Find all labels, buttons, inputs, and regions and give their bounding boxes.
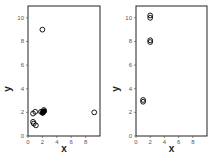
x-tick-label: 0 xyxy=(134,139,138,145)
y-tick-label: 2 xyxy=(21,109,25,115)
data-point xyxy=(92,110,97,115)
x-tick-label: 8 xyxy=(191,139,195,145)
y-tick-label: 10 xyxy=(17,15,24,21)
scatter-panel-2: 024680246810xy xyxy=(110,6,207,154)
scatter-figure: 024680246810xy024680246810xy xyxy=(0,0,213,155)
scatter-panel-1: 024680246810xy xyxy=(2,6,100,154)
y-tick-label: 8 xyxy=(21,38,25,44)
y-tick-label: 4 xyxy=(129,86,133,92)
x-axis-label: x xyxy=(169,143,175,154)
y-tick-label: 4 xyxy=(21,86,25,92)
x-tick-label: 0 xyxy=(26,139,30,145)
x-tick-label: 4 xyxy=(163,139,167,145)
y-tick-label: 0 xyxy=(129,133,133,139)
x-tick-label: 8 xyxy=(84,139,88,145)
y-tick-label: 6 xyxy=(129,62,133,68)
plot-frame xyxy=(136,6,207,136)
y-axis-label: y xyxy=(2,86,13,92)
y-tick-label: 2 xyxy=(129,109,133,115)
x-tick-label: 4 xyxy=(55,139,59,145)
y-tick-label: 6 xyxy=(21,62,25,68)
data-point xyxy=(42,109,47,114)
y-tick-label: 8 xyxy=(129,38,133,44)
x-axis-label: x xyxy=(61,143,67,154)
y-tick-label: 0 xyxy=(21,133,25,139)
x-tick-label: 2 xyxy=(41,139,45,145)
x-tick-label: 2 xyxy=(149,139,153,145)
y-tick-label: 10 xyxy=(125,15,132,21)
x-tick-label: 6 xyxy=(70,139,74,145)
data-point xyxy=(40,27,45,32)
plot-frame xyxy=(28,6,100,136)
y-axis-label: y xyxy=(110,86,121,92)
x-tick-label: 6 xyxy=(177,139,181,145)
